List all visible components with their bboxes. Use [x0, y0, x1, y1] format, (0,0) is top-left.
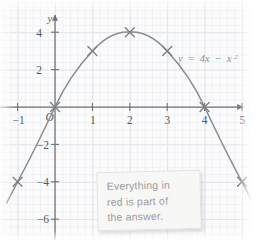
- equation-lhs: y: [177, 53, 183, 64]
- equation-label: y = 4x − x 2: [177, 53, 238, 65]
- x-tick-label-2: 2: [127, 114, 133, 126]
- equation-equals: =: [188, 53, 194, 64]
- equation-term1: 4x: [200, 53, 210, 64]
- x-tick-label-1: 1: [90, 114, 96, 126]
- sticky-note-text: Everything in red is part of the answer.: [107, 177, 193, 225]
- x-tick-label-5: 5: [240, 114, 246, 126]
- y-tick-label-neg4: −4: [37, 176, 49, 188]
- y-axis-label: y: [47, 12, 53, 24]
- x-tick-label-4: 4: [202, 114, 208, 126]
- equation-minus: −: [215, 53, 221, 64]
- equation-exponent: 2: [234, 53, 238, 61]
- x-tick-label-3: 3: [165, 114, 171, 126]
- y-tick-label-neg6: −6: [37, 213, 49, 225]
- sticky-note: Everything in red is part of the answer.: [96, 170, 201, 231]
- y-tick-label-2: 2: [36, 64, 42, 76]
- equation-term2: x: [226, 53, 232, 64]
- y-tick-label-4: 4: [36, 27, 42, 39]
- x-axis-label: x: [249, 110, 255, 122]
- x-tick-label-neg1: −1: [13, 114, 25, 126]
- graph-figure: −1 1 2 3 4 5 4 2 −2 −4 −6 O y x: [0, 0, 264, 245]
